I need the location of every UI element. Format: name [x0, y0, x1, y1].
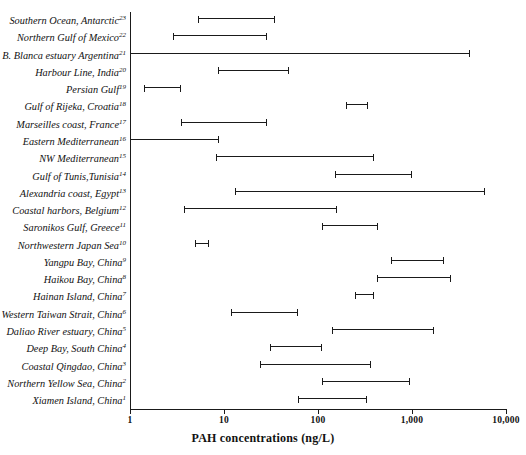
range-row: Gulf of Tunis,Tunisia14 — [0, 168, 526, 185]
range-cap-low — [181, 119, 182, 126]
range-row-label: NW Mediterranean15 — [0, 150, 126, 165]
range-cap-high — [367, 102, 368, 109]
range-row-label: Alexandria coast, Egypt13 — [0, 185, 126, 200]
range-row-label: Hainan Island, China7 — [0, 288, 126, 303]
range-row-label: Persian Gulf19 — [0, 81, 126, 96]
range-row: Harbour Line, India20 — [0, 64, 526, 81]
range-cap-high — [274, 16, 275, 23]
range-bar — [130, 53, 470, 54]
range-row-label: Haikou Bay, China8 — [0, 271, 126, 286]
range-row-label: B. Blanca estuary Argentina21 — [0, 47, 126, 62]
range-cap-low — [130, 136, 131, 143]
range-bar — [335, 174, 412, 175]
x-tick-label-1: 1 — [128, 415, 133, 425]
range-bar — [235, 191, 485, 192]
range-cap-low — [335, 171, 336, 178]
range-row: Northern Gulf of Mexico22 — [0, 29, 526, 46]
range-row: Alexandria coast, Egypt13 — [0, 185, 526, 202]
x-tick-1 — [130, 409, 131, 414]
range-bar — [270, 346, 322, 347]
range-cap-high — [266, 119, 267, 126]
range-bar — [322, 381, 410, 382]
range-bar — [332, 329, 434, 330]
range-bar — [322, 225, 378, 226]
range-cap-low — [298, 396, 299, 403]
range-row: Coastal harbors, Belgium12 — [0, 202, 526, 219]
range-row-label: Xiamen Island, China1 — [0, 392, 126, 407]
range-row-label: Northwestern Japan Sea10 — [0, 237, 126, 252]
range-cap-low — [218, 67, 219, 74]
range-row-label: Yangpu Bay, China9 — [0, 254, 126, 269]
x-tick-100 — [318, 409, 319, 414]
x-tick-1000 — [412, 409, 413, 414]
range-bar — [198, 18, 275, 19]
x-tick-label-1000: 1,000 — [401, 415, 423, 425]
range-cap-low — [231, 309, 232, 316]
range-cap-low — [173, 33, 174, 40]
x-tick-label-10000: 10,000 — [492, 415, 519, 425]
range-row: Northern Yellow Sea, China2 — [0, 375, 526, 392]
range-row: Marseilles coast, France17 — [0, 116, 526, 133]
range-cap-high — [366, 396, 367, 403]
range-row: Western Taiwan Strait, China6 — [0, 306, 526, 323]
range-row: Hainan Island, China7 — [0, 288, 526, 305]
range-row-label: Harbour Line, India20 — [0, 64, 126, 79]
range-cap-high — [288, 67, 289, 74]
range-cap-low — [322, 223, 323, 230]
range-row: Xiamen Island, China1 — [0, 392, 526, 409]
range-cap-high — [409, 378, 410, 385]
range-row-label: Southern Ocean, Antarctic23 — [0, 12, 126, 27]
range-row: Yangpu Bay, China9 — [0, 254, 526, 271]
range-cap-low — [198, 16, 199, 23]
range-row-label: Gulf of Rijeka, Croatia18 — [0, 98, 126, 113]
pah-concentration-range-chart: 1101001,00010,000 Southern Ocean, Antarc… — [0, 0, 526, 455]
range-cap-high — [469, 50, 470, 57]
range-row-label: Gulf of Tunis,Tunisia14 — [0, 168, 126, 183]
range-bar — [377, 277, 451, 278]
range-bar — [184, 208, 337, 209]
range-row: NW Mediterranean15 — [0, 150, 526, 167]
range-cap-high — [373, 154, 374, 161]
range-row-label: Eastern Mediterranean16 — [0, 133, 126, 148]
range-cap-high — [443, 257, 444, 264]
range-bar — [218, 70, 289, 71]
range-cap-low — [144, 85, 145, 92]
range-cap-high — [370, 361, 371, 368]
x-axis-title: PAH concentrations (ng/L) — [0, 431, 526, 446]
range-bar — [346, 104, 368, 105]
range-cap-high — [484, 188, 485, 195]
x-tick-label-10: 10 — [219, 415, 229, 425]
range-row-label: Marseilles coast, France17 — [0, 116, 126, 131]
range-cap-high — [411, 171, 412, 178]
range-cap-low — [216, 154, 217, 161]
range-cap-low — [377, 275, 378, 282]
range-row-label: Coastal Qingdao, China3 — [0, 358, 126, 373]
range-bar — [195, 243, 209, 244]
range-row: Gulf of Rijeka, Croatia18 — [0, 98, 526, 115]
range-cap-high — [218, 136, 219, 143]
x-tick-10 — [224, 409, 225, 414]
range-cap-high — [450, 275, 451, 282]
range-row: Haikou Bay, China8 — [0, 271, 526, 288]
range-cap-low — [130, 50, 131, 57]
range-row: Saronikos Gulf, Greece11 — [0, 219, 526, 236]
range-row: B. Blanca estuary Argentina21 — [0, 47, 526, 64]
range-row-label: Northern Gulf of Mexico22 — [0, 29, 126, 44]
range-cap-low — [195, 240, 196, 247]
range-cap-high — [266, 33, 267, 40]
range-row: Coastal Qingdao, China3 — [0, 358, 526, 375]
range-row: Eastern Mediterranean16 — [0, 133, 526, 150]
range-cap-low — [184, 206, 185, 213]
x-tick-10000 — [506, 409, 507, 414]
range-cap-low — [270, 344, 271, 351]
range-cap-high — [297, 309, 298, 316]
range-row-label: Western Taiwan Strait, China6 — [0, 306, 126, 321]
range-bar — [260, 364, 372, 365]
range-row: Southern Ocean, Antarctic23 — [0, 12, 526, 29]
range-row: Daliao River estuary, China5 — [0, 323, 526, 340]
range-bar — [298, 398, 366, 399]
range-row-label: Daliao River estuary, China5 — [0, 323, 126, 338]
range-bar — [216, 156, 374, 157]
range-row: Deep Bay, South China4 — [0, 340, 526, 357]
range-bar — [173, 35, 267, 36]
